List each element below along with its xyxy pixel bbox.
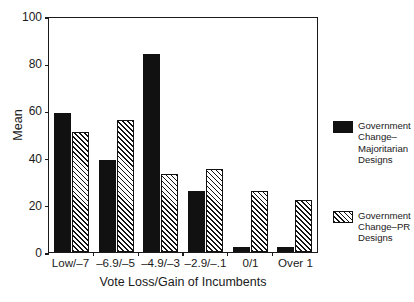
solid-black-swatch	[333, 121, 353, 133]
bar-pr-designs	[72, 132, 89, 252]
x-tick-label: 0/1	[228, 256, 273, 272]
bar-pr-designs	[161, 174, 178, 252]
x-tick-label: –4.9/–3	[138, 256, 183, 272]
y-tick-mark	[45, 206, 49, 207]
chart-legend: Government Change–Majoritarian DesignsGo…	[333, 120, 414, 288]
y-tick-mark	[45, 253, 49, 254]
bar-pr-designs	[295, 200, 312, 252]
bar-pr-designs	[251, 191, 268, 252]
bar-pr-designs	[117, 120, 134, 252]
x-tick-label: Low/–7	[48, 256, 93, 272]
hatched-swatch	[333, 211, 353, 223]
x-tick-label: Over 1	[273, 256, 318, 272]
bar-group	[138, 18, 183, 252]
y-tick-mark	[45, 17, 49, 18]
x-tick-label: –6.9/–5	[93, 256, 138, 272]
y-tick-label: 0	[8, 247, 42, 259]
bar-group	[228, 18, 273, 252]
bar-majoritarian-designs	[277, 247, 294, 252]
y-tick-label: 20	[8, 200, 42, 212]
y-tick-mark	[45, 159, 49, 160]
plot-area	[48, 17, 318, 253]
x-axis-tick-labels: Low/–7–6.9/–5–4.9/–3–2.9/–.10/1Over 1	[48, 256, 318, 272]
legend-label: Government Change–PR Designs	[358, 210, 414, 244]
x-tick-label: –2.9/–.1	[183, 256, 228, 272]
y-tick-label: 40	[8, 153, 42, 165]
bar-majoritarian-designs	[188, 191, 205, 252]
bar-pr-designs	[206, 169, 223, 252]
bar-group	[94, 18, 139, 252]
x-axis-title: Vote Loss/Gain of Incumbents	[48, 275, 318, 289]
bar-group	[272, 18, 317, 252]
y-tick-mark	[45, 112, 49, 113]
bar-chart-figure: Mean 100806040200 Low/–7–6.9/–5–4.9/–3–2…	[0, 0, 414, 302]
y-tick-label: 60	[8, 105, 42, 117]
bar-majoritarian-designs	[54, 113, 71, 252]
y-axis-tick-labels: 100806040200	[6, 0, 42, 302]
bar-group	[49, 18, 94, 252]
legend-entry: Government Change–Majoritarian Designs	[333, 120, 414, 166]
bar-groups	[49, 18, 317, 252]
y-tick-mark	[45, 65, 49, 66]
bar-majoritarian-designs	[143, 54, 160, 252]
bar-majoritarian-designs	[99, 160, 116, 252]
bar-group	[183, 18, 228, 252]
bar-majoritarian-designs	[233, 247, 250, 252]
y-tick-label: 80	[8, 58, 42, 70]
legend-label: Government Change–Majoritarian Designs	[358, 120, 414, 166]
legend-entry: Government Change–PR Designs	[333, 210, 414, 244]
y-tick-label: 100	[8, 11, 42, 23]
